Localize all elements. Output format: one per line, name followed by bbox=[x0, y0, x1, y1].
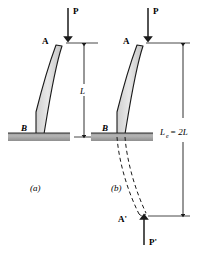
column-b bbox=[117, 45, 143, 134]
caption-a: (a) bbox=[30, 183, 41, 193]
mirror-tip-cap-b bbox=[139, 213, 146, 216]
point-label-b-base-b: B bbox=[101, 123, 108, 133]
dimension-label-le-b: L e = 2L bbox=[159, 127, 188, 139]
point-label-a-top-b: A bbox=[123, 36, 130, 46]
dimension-label-le-main: L bbox=[159, 127, 165, 137]
column-body-b bbox=[117, 45, 143, 134]
point-label-a-top-a: A bbox=[42, 36, 49, 46]
mirror-edge-right-b bbox=[125, 137, 146, 213]
mirror-load-label-p-prime: P' bbox=[149, 237, 157, 247]
load-label-p-a: P bbox=[73, 6, 79, 16]
dashed-mirror-curve-b bbox=[117, 137, 146, 216]
mirror-point-label-a-prime: A' bbox=[118, 214, 127, 224]
dimension-label-le-rest: = 2L bbox=[170, 127, 188, 137]
support-base-a bbox=[8, 133, 70, 141]
point-label-b-base-a: B bbox=[20, 123, 27, 133]
panel-a: P A B L (a) bbox=[8, 6, 98, 193]
column-body-a bbox=[36, 45, 62, 134]
dimension-label-l-a: L bbox=[79, 86, 85, 96]
dimension-label-le-subscript: e bbox=[166, 133, 169, 139]
column-effective-length-diagram: P A B L (a) P A bbox=[0, 0, 209, 253]
caption-b: (b) bbox=[111, 183, 122, 193]
support-base-b bbox=[91, 133, 153, 141]
column-a bbox=[36, 45, 62, 134]
mirror-edge-left-b bbox=[117, 137, 139, 214]
figure-container: P A B L (a) P A bbox=[0, 0, 209, 253]
panel-b: P A B P' A' L e = bbox=[91, 6, 190, 247]
load-label-p-b: P bbox=[153, 6, 159, 16]
